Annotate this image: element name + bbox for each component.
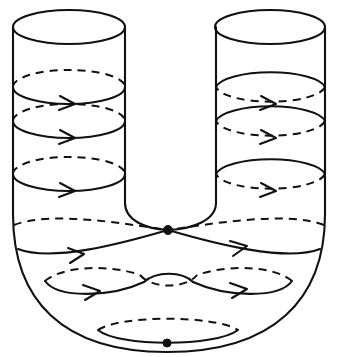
surface-base xyxy=(13,27,325,352)
u-tube-foliation-diagram xyxy=(0,0,338,357)
figure-root xyxy=(0,0,338,357)
right-tube-inner-wall xyxy=(168,27,216,230)
left-tube-inner-wall xyxy=(125,27,168,230)
saddle-node-dot xyxy=(164,226,173,235)
bottom-node-dot xyxy=(163,339,171,347)
